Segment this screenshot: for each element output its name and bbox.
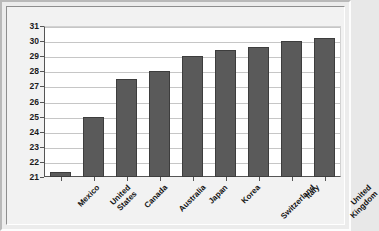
x-axis-tick-mark — [193, 177, 194, 181]
y-axis-tick-label: 26 — [30, 97, 39, 106]
x-axis-tick-mark — [127, 177, 128, 181]
y-axis-tick-label: 29 — [30, 52, 39, 61]
bar — [116, 79, 137, 177]
y-axis-tick-mark — [40, 177, 44, 178]
bar — [182, 56, 203, 177]
x-axis-tick-label-line: Australia — [177, 183, 208, 214]
x-axis-tick-label: Japan — [206, 183, 229, 206]
x-axis-tick-label: UnitedStates — [108, 183, 138, 213]
gridline — [45, 27, 340, 28]
x-axis-tick-mark — [94, 177, 95, 181]
x-axis-tick-label: Canada — [142, 183, 169, 210]
x-axis-tick-mark — [226, 177, 227, 181]
bar — [149, 71, 170, 177]
x-axis-tick-mark — [61, 177, 62, 181]
y-axis-tick-label: 22 — [30, 158, 39, 167]
x-axis-tick-label: Australia — [177, 183, 208, 214]
x-axis-tick-mark — [292, 177, 293, 181]
x-axis-tick-label-line: Japan — [206, 183, 229, 206]
x-axis-tick-label-line: Korea — [239, 183, 261, 205]
y-axis-tick-label: 27 — [30, 82, 39, 91]
x-axis-tick-mark — [160, 177, 161, 181]
bar — [281, 41, 302, 177]
chart-inner-bevel: 2122232425262728293031 MexicoUnitedState… — [6, 6, 345, 225]
bar — [83, 117, 104, 177]
y-axis-tick-label: 31 — [30, 22, 39, 31]
y-axis-tick-label: 21 — [30, 173, 39, 182]
x-axis-tick-label: Mexico — [75, 183, 101, 209]
y-axis-tick-label: 24 — [30, 127, 39, 136]
x-axis-tick-mark — [325, 177, 326, 181]
x-axis-tick-label: Korea — [239, 183, 261, 205]
y-axis-tick-label: 23 — [30, 143, 39, 152]
x-axis-tick-label: UnitedKingdom — [342, 183, 379, 220]
y-axis-tick-label: 28 — [30, 67, 39, 76]
y-axis: 2122232425262728293031 — [7, 7, 44, 197]
y-axis-tick-label: 25 — [30, 112, 39, 121]
bar — [314, 38, 335, 177]
x-axis-tick-label-line: Mexico — [75, 183, 101, 209]
x-axis-tick-label-line: Canada — [142, 183, 169, 210]
bar — [215, 50, 236, 177]
x-axis-tick-mark — [259, 177, 260, 181]
y-axis-tick-label: 30 — [30, 37, 39, 46]
bar — [248, 47, 269, 177]
